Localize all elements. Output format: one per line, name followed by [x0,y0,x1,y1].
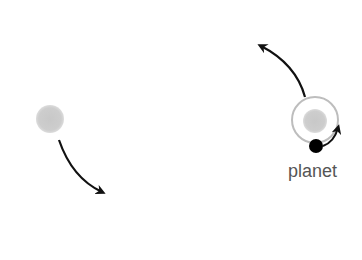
left-star-motion-arrow [59,140,102,192]
star-wobble-diagram: planet [0,0,362,260]
planet [309,139,323,153]
right-star [303,109,327,133]
right-star-motion-arrow [261,46,305,97]
left-star [36,105,64,133]
planet-label: planet [288,161,337,181]
